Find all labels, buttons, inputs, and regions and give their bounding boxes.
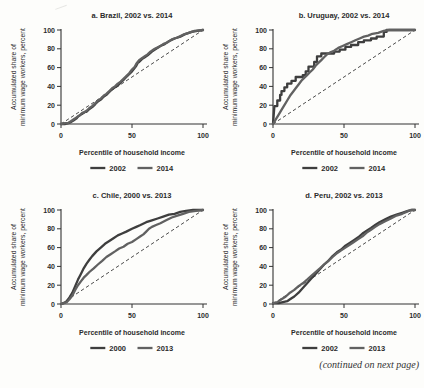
equality-dashed-line xyxy=(61,210,203,304)
legend-label-2002: 2002 xyxy=(321,164,338,173)
y-tick-label: 40 xyxy=(47,263,55,270)
x-axis-label: Percentile of household income xyxy=(291,329,397,336)
y-tick-label: 0 xyxy=(263,121,267,128)
chart-title: a. Brazil, 2002 vs. 2014 xyxy=(92,11,174,20)
y-tick-label: 0 xyxy=(51,121,55,128)
y-tick-label: 40 xyxy=(259,83,267,90)
legend-label-2013: 2013 xyxy=(157,344,174,353)
y-tick-label: 100 xyxy=(43,27,55,34)
y-axis-label-line2: minimum wage workers, percent xyxy=(231,208,239,306)
y-tick-label: 60 xyxy=(259,64,267,71)
y-tick-label: 60 xyxy=(47,244,55,251)
legend-label-2014: 2014 xyxy=(157,164,175,173)
x-tick-label: 50 xyxy=(128,132,136,139)
y-tick-label: 80 xyxy=(259,45,267,52)
chart-title: b. Uruguay, 2002 vs. 2014 xyxy=(299,11,391,20)
chart-svg-b: b. Uruguay, 2002 vs. 2014Accumulated sha… xyxy=(212,4,424,182)
y-tick-label: 80 xyxy=(259,225,267,232)
y-tick-label: 20 xyxy=(47,282,55,289)
chart-title: c. Chile, 2000 vs. 2013 xyxy=(93,191,172,200)
y-tick-label: 20 xyxy=(259,282,267,289)
x-tick-label: 100 xyxy=(409,312,421,319)
y-tick-label: 20 xyxy=(47,102,55,109)
chart-panel-uruguay: b. Uruguay, 2002 vs. 2014Accumulated sha… xyxy=(212,4,424,182)
equality-dashed-line xyxy=(273,30,415,124)
legend-label-2013: 2013 xyxy=(369,344,386,353)
x-tick-label: 50 xyxy=(340,132,348,139)
continued-note: (continued on next page) xyxy=(319,359,419,370)
chart-panel-peru: d. Peru, 2002 vs. 2013Accumulated share … xyxy=(212,184,424,362)
x-tick-label: 0 xyxy=(271,312,275,319)
x-tick-label: 0 xyxy=(59,312,63,319)
legend-label-2014: 2014 xyxy=(369,164,387,173)
chart-panel-brazil: a. Brazil, 2002 vs. 2014Accumulated shar… xyxy=(0,4,212,182)
y-axis-label-line1: Accumulated share of xyxy=(10,44,17,110)
x-axis-label: Percentile of household income xyxy=(79,329,185,336)
chart-svg-c: c. Chile, 2000 vs. 2013Accumulated share… xyxy=(0,184,212,362)
y-axis-label-line2: minimum wage workers, percent xyxy=(19,28,27,126)
x-axis-label: Percentile of household income xyxy=(79,149,185,156)
y-tick-label: 20 xyxy=(259,102,267,109)
y-tick-label: 60 xyxy=(47,64,55,71)
x-tick-label: 50 xyxy=(128,312,136,319)
y-axis-label-line1: Accumulated share of xyxy=(222,44,229,110)
chart-title: d. Peru, 2002 vs. 2013 xyxy=(305,191,383,200)
y-tick-label: 100 xyxy=(43,207,55,214)
y-tick-label: 100 xyxy=(255,207,267,214)
y-tick-label: 40 xyxy=(47,83,55,90)
y-tick-label: 80 xyxy=(47,225,55,232)
chart-svg-a: a. Brazil, 2002 vs. 2014Accumulated shar… xyxy=(0,4,212,182)
y-tick-label: 0 xyxy=(263,301,267,308)
y-tick-label: 80 xyxy=(47,45,55,52)
legend-label-2000: 2000 xyxy=(109,344,126,353)
x-tick-label: 100 xyxy=(197,312,209,319)
y-tick-label: 60 xyxy=(259,244,267,251)
x-tick-label: 50 xyxy=(340,312,348,319)
y-tick-label: 0 xyxy=(51,301,55,308)
x-tick-label: 100 xyxy=(197,132,209,139)
y-axis-label-line1: Accumulated share of xyxy=(222,224,229,290)
y-axis-label-line2: minimum wage workers, percent xyxy=(19,208,27,306)
figure-page: a. Brazil, 2002 vs. 2014Accumulated shar… xyxy=(0,0,424,388)
y-tick-label: 100 xyxy=(255,27,267,34)
chart-svg-d: d. Peru, 2002 vs. 2013Accumulated share … xyxy=(212,184,424,362)
y-tick-label: 40 xyxy=(259,263,267,270)
y-axis-label-line1: Accumulated share of xyxy=(10,224,17,290)
x-tick-label: 0 xyxy=(59,132,63,139)
equality-dashed-line xyxy=(61,30,203,124)
chart-panel-chile: c. Chile, 2000 vs. 2013Accumulated share… xyxy=(0,184,212,362)
legend-label-2002: 2002 xyxy=(109,164,126,173)
y-axis-label-line2: minimum wage workers, percent xyxy=(231,28,239,126)
x-axis-label: Percentile of household income xyxy=(291,149,397,156)
x-tick-label: 100 xyxy=(409,132,421,139)
legend-label-2002: 2002 xyxy=(321,344,338,353)
x-tick-label: 0 xyxy=(271,132,275,139)
